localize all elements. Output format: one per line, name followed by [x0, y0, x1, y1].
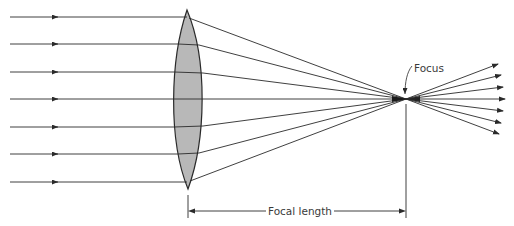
focal-length-label: Focal length — [266, 205, 334, 217]
converging-rays — [189, 18, 406, 181]
lens-diagram — [0, 0, 514, 226]
focal-length-dimension — [188, 104, 406, 218]
focus-leader-arrow — [405, 66, 412, 94]
diverging-rays — [406, 64, 505, 134]
incoming-rays — [10, 17, 187, 182]
convex-lens — [174, 10, 203, 189]
focus-label: Focus — [414, 62, 444, 74]
